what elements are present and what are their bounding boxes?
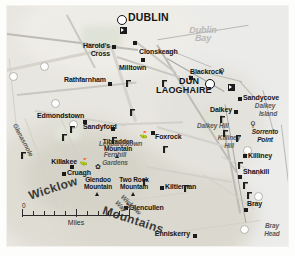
label-harolds-cross-line1: Harold's (62, 42, 110, 50)
castle-icon-dun-laoghaire (228, 84, 235, 91)
label-killiney: Killiney (248, 152, 272, 160)
label-blackrock: Blackrock (190, 68, 223, 76)
scale-tick-9 (119, 211, 120, 216)
poi-icon-glenasmole-n (62, 134, 67, 141)
label-bray-head: BrayHead (255, 222, 288, 238)
scale-label-min: 0 (22, 202, 26, 209)
garden-icon-fernhill: ✿ (95, 163, 102, 170)
city-marker-dublin[interactable] (117, 15, 127, 25)
junction-west (9, 72, 18, 81)
town-marker-rathfarnham[interactable] (108, 82, 112, 86)
town-marker-killiney[interactable] (243, 154, 247, 158)
scale-tick-4 (65, 211, 66, 216)
map-screenshot: DublinBay DUBLIN DÚN LAOGHAIRE Harold's … (0, 0, 295, 256)
poi-icon-killakee-west (21, 152, 26, 159)
junction-ring-sw (51, 99, 60, 108)
label-clonskeagh: Clonskeagh (139, 48, 178, 56)
scale-tick-end (129, 209, 130, 217)
label-dalkey-hill: Dalkey Hill (197, 122, 229, 130)
scale-tick-mid (76, 209, 77, 217)
scale-tick-7 (98, 211, 99, 216)
label-two-rock-mountain: Two RockMountain (107, 176, 161, 190)
label-harolds-cross-line2: Cross (62, 50, 110, 58)
label-kiltiernan: Kiltiernan (165, 183, 196, 191)
castle-icon-dublin (120, 27, 127, 34)
label-foxrock: Foxrock (155, 133, 182, 141)
golf-icon-killakee: ⛳ (79, 158, 86, 165)
label-sorrento-point: SorrentoPoint (241, 128, 288, 144)
viewpoint-icon-blackrock: ⚲ (219, 68, 225, 75)
label-sandycove: Sandycove (243, 94, 279, 102)
scale-bar: 0 5 Miles (22, 206, 130, 228)
label-dublin: DUBLIN (128, 13, 169, 21)
terrain-green-patch-b (55, 124, 81, 140)
peak-marker-glendoo (95, 192, 99, 196)
peak-marker-two-rock (131, 192, 135, 196)
scale-label-max: 5 (126, 202, 130, 209)
scale-tick-1 (33, 211, 34, 216)
label-dun-laoghaire-line2: LAOGHAIRE (156, 86, 212, 94)
scale-tick-2 (44, 211, 45, 216)
scale-label-units: Miles (22, 219, 130, 226)
town-marker-clonskeagh[interactable] (133, 41, 137, 45)
label-edmondstown: Edmondstown (37, 112, 84, 120)
town-marker-shankill[interactable] (238, 175, 242, 179)
scale-tick-6 (87, 211, 88, 216)
label-shankill: Shankill (243, 168, 269, 176)
poi-icon-edmondstown (70, 126, 75, 133)
town-marker-cruagh[interactable] (62, 172, 66, 176)
junction-ring-nw (40, 62, 49, 71)
viewpoint-icon-sorrento: ⚲ (250, 121, 256, 128)
label-rathfarnham: Rathfarnham (47, 76, 106, 84)
poi-icon-rathfarnham (126, 80, 131, 87)
label-bray: Bray (247, 200, 262, 208)
label-dalkey-island: DalkeyIsland (243, 102, 287, 118)
label-leopardstown: Leopardstown (99, 140, 142, 148)
label-range-wicklow: Wicklow (28, 177, 79, 200)
scale-tick-3 (54, 211, 55, 216)
golf-icon-leopardstown: ⛳ (139, 131, 146, 138)
label-sandyford: Sandyford (83, 123, 117, 131)
town-marker-enniskerry[interactable] (193, 234, 197, 238)
label-milltown: Milltown (119, 64, 146, 72)
town-marker-harolds-cross[interactable] (112, 45, 116, 49)
label-killakee: Killakee (31, 158, 77, 166)
scale-tick-start (22, 209, 23, 217)
town-marker-milltown[interactable] (141, 58, 145, 62)
road-west-edge (8, 59, 17, 129)
town-marker-bray[interactable] (244, 208, 248, 212)
town-marker-sandycove[interactable] (238, 97, 242, 101)
town-marker-foxrock[interactable] (151, 131, 155, 135)
town-marker-dalkey[interactable] (234, 110, 238, 114)
town-marker-blackrock[interactable] (189, 76, 193, 80)
label-dalkey: Dalkey (197, 106, 232, 114)
poi-icon-foxrock-west (130, 109, 135, 116)
map-sheet[interactable]: DublinBay DUBLIN DÚN LAOGHAIRE Harold's … (7, 6, 288, 246)
poi-icon-foxrock-south (163, 146, 168, 153)
scale-tick-8 (108, 211, 109, 216)
label-dublin-bay: DublinBay (162, 26, 244, 42)
